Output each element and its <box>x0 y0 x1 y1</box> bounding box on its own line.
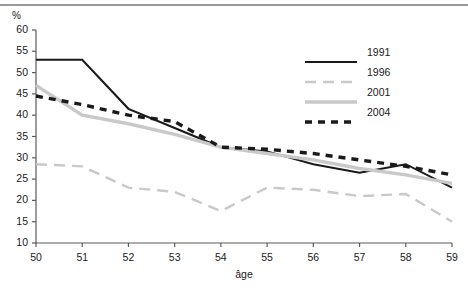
legend-label: 2004 <box>367 106 390 118</box>
legend-swatch-2004 <box>305 111 357 117</box>
x-tick-label: 55 <box>252 251 282 263</box>
legend-label: 1996 <box>367 66 390 78</box>
x-tick-label: 54 <box>206 251 236 263</box>
y-tick-label: 35 <box>2 130 28 142</box>
legend-item-1996: 1996 <box>305 64 435 84</box>
legend-item-1991: 1991 <box>305 44 435 64</box>
legend-swatch-1991 <box>305 51 357 57</box>
x-tick-label: 52 <box>113 251 143 263</box>
x-tick-label: 56 <box>298 251 328 263</box>
legend-swatch-2001 <box>305 91 357 97</box>
y-tick-label: 20 <box>2 193 28 205</box>
chart-legend: 1991199620012004 <box>305 44 435 124</box>
y-tick-label: 60 <box>2 23 28 35</box>
legend-label: 1991 <box>367 46 390 58</box>
x-tick-label: 50 <box>21 251 51 263</box>
x-tick-label: 51 <box>67 251 97 263</box>
y-tick-label: 55 <box>2 44 28 56</box>
y-tick-label: 50 <box>2 66 28 78</box>
x-axis-title: âge <box>214 268 274 280</box>
x-tick-label: 57 <box>345 251 375 263</box>
legend-item-2001: 2001 <box>305 84 435 104</box>
y-tick-label: 10 <box>2 236 28 248</box>
x-tick-label: 53 <box>160 251 190 263</box>
legend-swatch-1996 <box>305 71 357 77</box>
y-tick-label: 40 <box>2 108 28 120</box>
chart-container: % 1015202530354045505560 505152535455565… <box>0 0 468 291</box>
y-tick-label: 30 <box>2 151 28 163</box>
legend-item-2004: 2004 <box>305 104 435 124</box>
legend-label: 2001 <box>367 86 390 98</box>
x-tick-label: 59 <box>437 251 467 263</box>
y-tick-label: 45 <box>2 87 28 99</box>
x-tick-label: 58 <box>391 251 421 263</box>
y-tick-label: 15 <box>2 215 28 227</box>
y-tick-label: 25 <box>2 172 28 184</box>
